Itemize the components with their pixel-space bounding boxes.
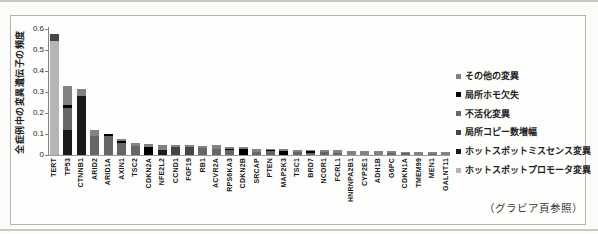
bar-segment-SRCAP [252, 152, 261, 155]
x-label-FGF19: FGF19 [184, 158, 194, 232]
legend-swatch-icon [456, 92, 461, 97]
x-label-CDKN2B: CDKN2B [238, 158, 248, 232]
bar-segment-ARID1A [104, 134, 113, 136]
bar-segment-MEN1 [428, 152, 437, 153]
legend-swatch-icon [456, 111, 461, 116]
x-label-TERT: TERT [49, 158, 59, 232]
x-label-MAP2K3: MAP2K3 [279, 158, 289, 232]
x-label-CTNNB1: CTNNB1 [76, 158, 86, 232]
x-label-SRCAP: SRCAP [252, 158, 262, 232]
bar-segment-CDKN2A [144, 147, 153, 155]
y-tick-mark [45, 134, 48, 135]
legend-swatch-icon [456, 149, 461, 154]
x-label-CCND1: CCND1 [171, 158, 181, 232]
legend-item: 局所ホモ欠失 [456, 89, 519, 101]
bar-segment-AXIN1 [117, 143, 126, 155]
bar-segment-NCOR1 [320, 152, 329, 155]
x-label-TSC2: TSC2 [130, 158, 140, 232]
bar-segment-FCRL1 [333, 150, 342, 153]
bar-segment-CDKN2B [239, 147, 248, 148]
bar-segment-FGF19 [185, 145, 194, 147]
bar-segment-FGF19 [185, 147, 194, 155]
bar-segment-GALNT11 [441, 152, 450, 155]
y-tick-label: 0.4 [18, 66, 44, 76]
bar-segment-TSC2 [131, 146, 140, 155]
bar-segment-G6PC [387, 153, 396, 155]
y-tick-mark [45, 50, 48, 51]
x-label-NFE2L2: NFE2L2 [157, 158, 167, 232]
y-tick-mark [45, 71, 48, 72]
bar-segment-CDKN1A [401, 152, 410, 154]
legend-swatch-icon [456, 130, 461, 135]
bar-segment-TSC2 [131, 143, 140, 145]
x-label-AXIN1: AXIN1 [117, 158, 127, 232]
y-tick-mark [45, 155, 48, 156]
legend-item: 局所コピー数増幅 [456, 126, 537, 138]
bar-segment-G6PC [387, 151, 396, 153]
y-tick-label: 0.3 [18, 87, 44, 97]
bar-segment-TMEM99 [414, 152, 423, 155]
bar-segment-ACVR2A [212, 149, 221, 155]
bar-segment-NFE2L2 [158, 150, 167, 155]
x-label-TP53: TP53 [63, 158, 73, 232]
legend-swatch-icon [456, 74, 461, 79]
legend-item: ホットスポットプロモータ変異 [456, 164, 591, 176]
legend-label: ホットスポットミスセンス変異 [465, 145, 591, 157]
bar-segment-TERT [50, 41, 59, 155]
bar-segment-MAP2K3 [279, 149, 288, 151]
legend-item: 不活化変異 [456, 108, 510, 120]
x-label-BRD7: BRD7 [306, 158, 316, 232]
bar-segment-RPS6KA3 [225, 150, 234, 155]
page-top-edge [0, 0, 598, 2]
bar-segment-CTNNB1 [77, 96, 86, 155]
bar-segment-TP53 [63, 86, 72, 105]
bar-segment-ARID2 [90, 136, 99, 155]
bar-segment-CDKN2B [239, 149, 248, 155]
bar-segment-CCND1 [171, 145, 180, 147]
bar-segment-RPS6KA3 [225, 149, 234, 150]
bar-segment-TERT [50, 34, 59, 40]
bar-segment-TP53 [63, 105, 72, 108]
bar-segment-AXIN1 [117, 141, 126, 143]
bar-segment-AXIN1 [117, 139, 126, 141]
y-tick-label: 0.2 [18, 108, 44, 118]
x-label-CYP2E1: CYP2E1 [360, 158, 370, 232]
bar-segment-CCND1 [171, 147, 180, 155]
bar-segment-SRCAP [252, 149, 261, 152]
x-label-RB1: RB1 [198, 158, 208, 232]
legend-label: 局所コピー数増幅 [465, 126, 537, 138]
bar-segment-NCOR1 [320, 150, 329, 152]
bar-segment-MAP2K3 [279, 151, 288, 155]
bar-segment-ARID1A [104, 136, 113, 155]
x-label-CDKN2A: CDKN2A [144, 158, 154, 232]
y-tick-label: 0.5 [18, 45, 44, 55]
legend-label: 局所ホモ欠失 [465, 89, 519, 101]
x-label-G6PC: G6PC [387, 158, 397, 232]
bar-segment-ADH1B [374, 151, 383, 155]
bar-segment-CTNNB1 [77, 89, 86, 96]
x-label-ARID2: ARID2 [90, 158, 100, 232]
bar-segment-TSC1 [293, 150, 302, 152]
bar-segment-RPS6KA3 [225, 147, 234, 149]
x-label-ARID1A: ARID1A [103, 158, 113, 232]
x-axis-line [48, 155, 450, 156]
bar-segment-TSC1 [293, 152, 302, 155]
bar-segment-PTEN [266, 150, 275, 151]
bar-segment-NFE2L2 [158, 145, 167, 150]
y-tick-mark [45, 113, 48, 114]
bar-segment-CDKN1A [401, 153, 410, 155]
legend-label: ホットスポットプロモータ変異 [465, 164, 591, 176]
bar-segment-ARID2 [90, 130, 99, 136]
x-label-HNRNPA2B1: HNRNPA2B1 [346, 158, 356, 232]
x-label-MEN1: MEN1 [427, 158, 437, 232]
bar-segment-RB1 [198, 146, 207, 148]
bar-segment-MEN1 [428, 154, 437, 155]
bar-segment-CYP2E1 [360, 151, 369, 155]
bar-segment-TP53 [63, 108, 72, 130]
legend-label: その他の変異 [465, 70, 519, 82]
bar-segment-TP53 [63, 130, 72, 155]
bar-segment-PTEN [266, 151, 275, 155]
x-label-GALNT11: GALNT11 [441, 158, 451, 232]
bar-segment-RB1 [198, 148, 207, 155]
bar-segment-BRD7 [306, 153, 315, 155]
